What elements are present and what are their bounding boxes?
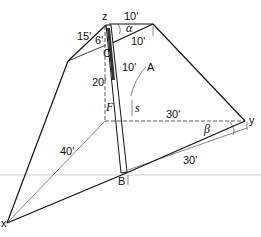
label-15: 15' (77, 30, 91, 42)
cable-C-left (68, 45, 106, 61)
label-B: B (118, 175, 125, 187)
label-F: F (105, 100, 114, 114)
label-6: 6' (95, 34, 103, 46)
ground-line-B-y (124, 121, 245, 174)
label-30-By: 30' (183, 154, 197, 166)
label-beta: β (203, 122, 210, 136)
label-alpha: α (126, 21, 133, 35)
label-C: C (103, 47, 111, 59)
label-z: z (102, 10, 108, 22)
cable-left-to-x (7, 61, 68, 223)
label-pole-10: 10' (122, 61, 136, 73)
label-x: x (1, 217, 7, 229)
label-40: 40' (60, 145, 74, 157)
label-y: y (249, 114, 255, 126)
label-A: A (147, 61, 155, 73)
diagram-svg: z 10' 15' 6' α 10' C 10' A 20' s F 30' y… (0, 0, 261, 237)
alpha-arc (118, 24, 120, 34)
pole-cable-diagram: z 10' 15' 6' α 10' C 10' A 20' s F 30' y… (0, 0, 261, 237)
label-lower-10: 10' (131, 35, 145, 47)
x-axis-line (7, 121, 105, 223)
label-30-dashed: 30' (166, 108, 180, 120)
ground-line-x-B (7, 174, 124, 223)
axes (105, 26, 245, 121)
cable-right-to-y (153, 24, 245, 121)
label-s: s (135, 101, 140, 115)
label-20: 20' (92, 76, 106, 88)
